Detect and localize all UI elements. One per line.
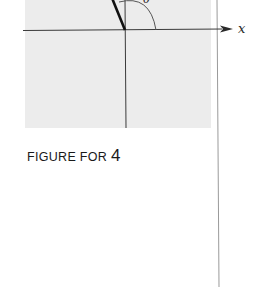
- caption-number: 4: [111, 146, 121, 165]
- x-axis-label: x: [238, 21, 246, 36]
- right-margin-line: [217, 0, 219, 287]
- caption-prefix: FIGURE FOR: [27, 150, 107, 164]
- figure-caption: FIGURE FOR 4: [27, 146, 121, 166]
- angle-theta-label: θ: [143, 0, 151, 6]
- figure-diagram: x θ: [0, 0, 266, 287]
- shaded-panel: [25, 0, 211, 128]
